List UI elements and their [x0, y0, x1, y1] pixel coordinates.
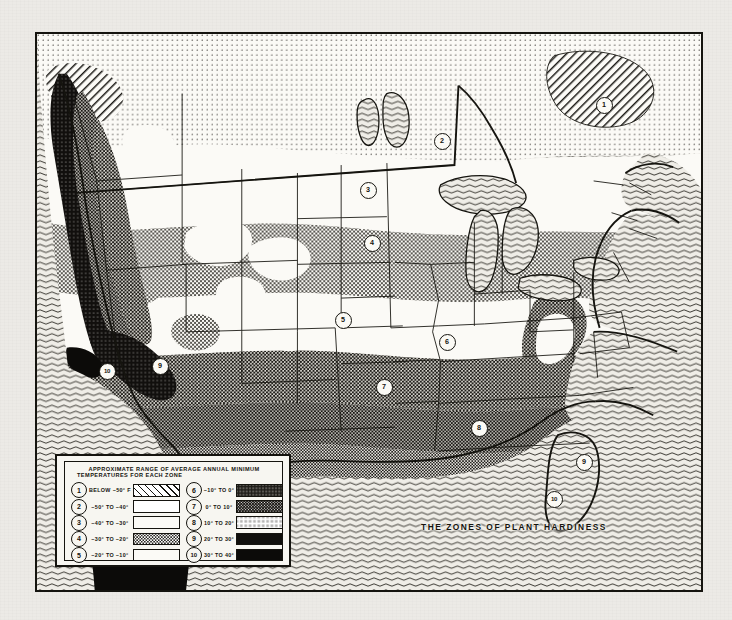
legend-zone-label-6: −10° TO 0° [202, 487, 236, 493]
legend-zone-number-10: 10 [186, 547, 202, 563]
legend-zone-label-3: −40° TO −30° [87, 520, 133, 526]
legend-zone-label-8: 10° TO 20° [202, 520, 236, 526]
legend-row-zone-1: 1 BELOW −50° F [71, 483, 180, 498]
map-zone-marker-4: 4 [364, 235, 381, 252]
legend-swatch-zone-2 [133, 500, 180, 513]
legend-swatch-zone-7 [236, 500, 283, 513]
map-zone-marker-9-west: 9 [152, 358, 169, 375]
map-zone-marker-2: 2 [434, 133, 451, 150]
map-canvas: 1 2 3 4 5 6 7 8 9 10 9 10 THE ZONES OF P… [37, 34, 701, 590]
legend-row-zone-7: 7 0° TO 10° [186, 499, 283, 514]
map-zone-marker-7: 7 [376, 379, 393, 396]
legend-row-zone-10: 10 30° TO 40° [186, 548, 283, 563]
legend-zone-number-5: 5 [71, 547, 87, 563]
legend-row-zone-2: 2 −50° TO −40° [71, 499, 180, 514]
legend-swatch-zone-6 [236, 484, 283, 497]
legend-zone-label-5: −20° TO −10° [87, 552, 133, 558]
map-zone-marker-5: 5 [335, 312, 352, 329]
legend-zone-label-4: −30° TO −20° [87, 536, 133, 542]
legend-row-zone-3: 3 −40° TO −30° [71, 515, 180, 530]
legend-zone-label-2: −50° TO −40° [87, 504, 133, 510]
legend-row-zone-5: 5 −20° TO −10° [71, 548, 180, 563]
map-zone-marker-8: 8 [471, 420, 488, 437]
legend-row-zone-9: 9 20° TO 30° [186, 531, 283, 546]
legend-zone-number-9: 9 [186, 531, 202, 547]
legend-zone-label-9: 20° TO 30° [202, 536, 236, 542]
map-zone-marker-10-west: 10 [99, 363, 116, 380]
legend-zone-number-7: 7 [186, 499, 202, 515]
legend-inner-border: APPROXIMATE RANGE OF AVERAGE ANNUAL MINI… [64, 461, 283, 561]
legend-columns: 1 BELOW −50° F 2 −50° TO −40° 3 −40° TO … [71, 483, 277, 563]
map-zone-marker-1: 1 [596, 97, 613, 114]
map-zone-marker-10-florida: 10 [546, 491, 563, 508]
legend-zone-number-6: 6 [186, 482, 202, 498]
map-zone-marker-9-east: 9 [576, 454, 593, 471]
map-caption: THE ZONES OF PLANT HARDINESS [389, 522, 639, 532]
legend-swatch-zone-9 [236, 533, 283, 546]
legend-zone-number-8: 8 [186, 515, 202, 531]
legend-column-left: 1 BELOW −50° F 2 −50° TO −40° 3 −40° TO … [71, 483, 180, 563]
legend-zone-label-1: BELOW −50° F [87, 487, 133, 493]
legend-swatch-zone-5 [133, 549, 180, 562]
map-frame: 1 2 3 4 5 6 7 8 9 10 9 10 THE ZONES OF P… [35, 32, 703, 592]
legend-column-right: 6 −10° TO 0° 7 0° TO 10° 8 10° TO 2 [186, 483, 283, 563]
legend-row-zone-6: 6 −10° TO 0° [186, 483, 283, 498]
legend-zone-number-3: 3 [71, 515, 87, 531]
legend-swatch-zone-3 [133, 516, 180, 529]
legend-zone-label-7: 0° TO 10° [202, 504, 236, 510]
legend-swatch-zone-1 [133, 484, 180, 497]
legend-zone-number-2: 2 [71, 499, 87, 515]
legend-swatch-zone-10 [236, 549, 283, 562]
legend-zone-label-10: 30° TO 40° [202, 552, 236, 558]
legend-row-zone-4: 4 −30° TO −20° [71, 531, 180, 546]
legend-panel: APPROXIMATE RANGE OF AVERAGE ANNUAL MINI… [55, 454, 291, 567]
legend-title-line-2: TEMPERATURES FOR EACH ZONE [71, 472, 277, 479]
legend-zone-number-1: 1 [71, 482, 87, 498]
legend-swatch-zone-4 [133, 533, 180, 546]
legend-zone-number-4: 4 [71, 531, 87, 547]
legend-row-zone-8: 8 10° TO 20° [186, 515, 283, 530]
map-zone-marker-6: 6 [439, 334, 456, 351]
map-zone-marker-3: 3 [360, 182, 377, 199]
legend-swatch-zone-8 [236, 516, 283, 529]
